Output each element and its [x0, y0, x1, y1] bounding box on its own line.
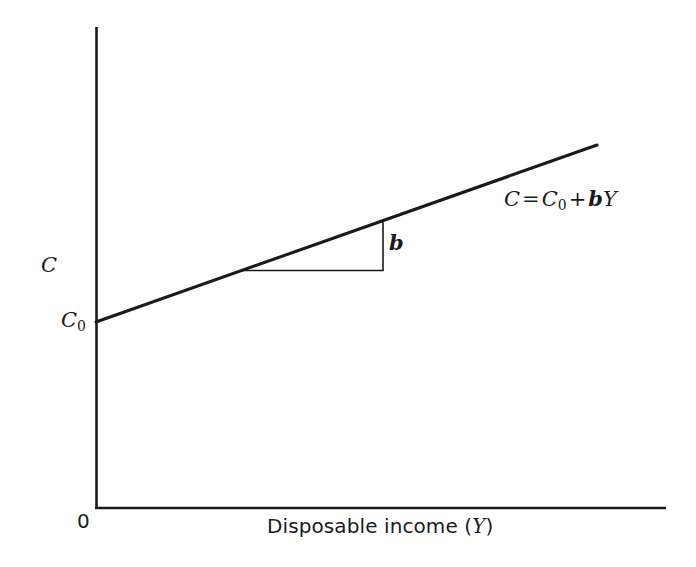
- equation-intercept: C: [542, 187, 558, 211]
- consumption-function-line: [96, 145, 597, 322]
- equation-income-variable: Y: [603, 187, 617, 211]
- intercept-label: C0: [61, 310, 86, 331]
- equation-lhs: C: [504, 187, 520, 211]
- y-axis-label: C: [41, 255, 57, 276]
- equation-equals-sign: =: [520, 187, 542, 211]
- chart-canvas: [0, 0, 696, 567]
- intercept-label-base: C: [61, 308, 77, 332]
- consumption-function-figure: C C0 0 Disposable income (Y) b C=C0+bY: [0, 0, 696, 567]
- intercept-label-subscript: 0: [77, 318, 86, 334]
- equation-label: C=C0+bY: [504, 188, 617, 210]
- equation-intercept-subscript: 0: [558, 197, 567, 213]
- x-axis-label-prefix: Disposable income (: [267, 514, 472, 538]
- equation-slope-coefficient: b: [588, 186, 603, 211]
- origin-label: 0: [77, 511, 90, 531]
- x-axis-label: Disposable income (Y): [267, 516, 493, 536]
- equation-plus-sign: +: [567, 187, 589, 211]
- x-axis-label-suffix: ): [486, 514, 494, 538]
- slope-label: b: [389, 232, 404, 253]
- x-axis-label-variable: Y: [472, 514, 485, 538]
